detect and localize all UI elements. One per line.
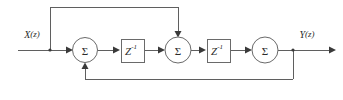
delay-1-exponent: -1 [131, 43, 137, 51]
input-label-arg: (z) [30, 29, 40, 39]
arrowhead-into-sum-3 [245, 47, 252, 54]
arrowhead-into-sum-1 [66, 47, 73, 54]
arrowhead-into-delay-2 [199, 47, 206, 54]
summing-junction-1: Σ [73, 38, 98, 63]
summing-junction-2: Σ [165, 37, 191, 63]
sum-1-label: Σ [82, 45, 88, 57]
arrowhead-into-delay-1 [113, 47, 120, 54]
delay-block-2: Z-1 [207, 39, 230, 62]
sum-2-label: Σ [175, 45, 181, 57]
output-port-label: Y(z) [299, 29, 314, 40]
block-diagram-figure: Σ Σ Σ Z-1 Z-1 X(z) Y(z) [0, 0, 343, 100]
sum-3-label: Σ [262, 45, 268, 57]
summing-junction-3: Σ [252, 37, 278, 63]
block-diagram-canvas: Σ Σ Σ Z-1 Z-1 X(z) Y(z) [0, 0, 343, 100]
arrowhead-into-sum-1-bottom [82, 63, 89, 70]
delay-2-exponent: -1 [217, 43, 223, 51]
arrowhead-output [329, 47, 336, 54]
input-port-label: X(z) [23, 29, 40, 40]
junction-dot-feedforward-tap [48, 48, 51, 51]
arrowhead-into-sum-2 [158, 47, 165, 54]
output-label-arg: (z) [305, 29, 315, 39]
junction-dot-feedback-tap [291, 48, 294, 51]
delay-block-1: Z-1 [121, 39, 144, 62]
